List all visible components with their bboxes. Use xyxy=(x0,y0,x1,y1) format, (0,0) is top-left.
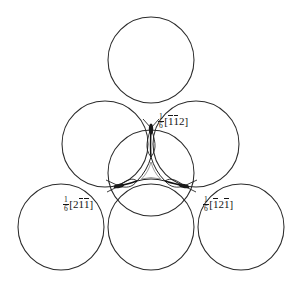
miller-index-bottom-right: [121] xyxy=(209,199,233,210)
fraction-one-sixth-bottom-right: 1 6 xyxy=(203,196,209,212)
miller-index-bottom-left: [211] xyxy=(69,199,93,210)
fraction-denominator: 6 xyxy=(203,205,209,213)
burgers-vector-label-bottom-left: 1 6 [211] xyxy=(63,196,93,212)
miller-digit-2: 1 xyxy=(173,116,179,127)
miller-digit-3: 1 xyxy=(84,199,90,210)
extended-node-group xyxy=(106,119,197,192)
bracket-close: ] xyxy=(229,198,233,210)
figure-canvas xyxy=(0,0,302,286)
whisker-br-a xyxy=(184,180,197,186)
node-blob-top xyxy=(149,124,153,135)
fraction-denominator: 6 xyxy=(158,122,164,130)
miller-digit-3: 1 xyxy=(224,199,230,210)
bracket-close: ] xyxy=(184,115,188,127)
whisker-bl-a xyxy=(106,180,119,186)
fraction-denominator: 6 xyxy=(63,205,69,213)
fraction-one-sixth-top: 1 6 xyxy=(158,113,164,129)
dislocation-node-figure: 1 6 [112] 1 6 [211] 1 6 [121] xyxy=(0,0,302,286)
circle-mid-left xyxy=(62,101,148,187)
burgers-vector-label-bottom-right: 1 6 [121] xyxy=(203,196,233,212)
circle-top xyxy=(108,17,194,103)
miller-index-top-right: [112] xyxy=(164,116,188,127)
burgers-vector-label-top-right: 1 6 [112] xyxy=(158,113,188,129)
fraction-one-sixth-bottom-left: 1 6 xyxy=(63,196,69,212)
bracket-close: ] xyxy=(89,198,93,210)
miller-digit-1: 1 xyxy=(213,199,219,210)
circle-bottom-mid xyxy=(108,184,194,270)
